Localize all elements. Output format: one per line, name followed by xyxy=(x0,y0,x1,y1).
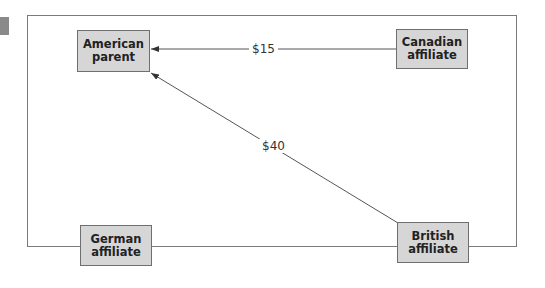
node-label: American parent xyxy=(83,38,144,64)
node-american-parent[interactable]: American parent xyxy=(77,30,150,72)
edge-label-40: $40 xyxy=(259,139,288,153)
node-label: British affiliate xyxy=(408,230,458,256)
node-label: Canadian affiliate xyxy=(402,36,462,62)
node-british-affiliate[interactable]: British affiliate xyxy=(397,222,469,263)
node-german-affiliate[interactable]: German affiliate xyxy=(80,225,152,266)
side-marker xyxy=(0,17,9,35)
node-label: German affiliate xyxy=(91,233,142,259)
node-canadian-affiliate[interactable]: Canadian affiliate xyxy=(396,29,468,69)
edge-label-15: $15 xyxy=(249,42,278,56)
